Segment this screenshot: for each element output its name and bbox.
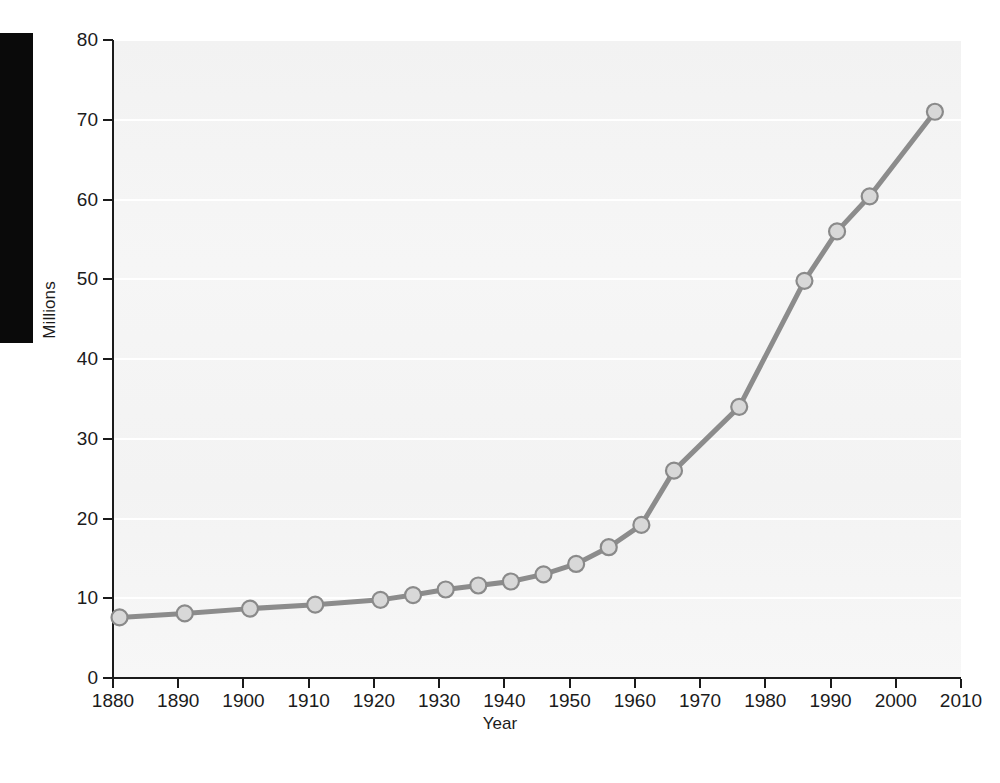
data-point-marker xyxy=(405,587,421,603)
data-point-marker xyxy=(177,605,193,621)
data-point-marker xyxy=(307,597,323,613)
data-point-marker xyxy=(536,566,552,582)
data-point-marker xyxy=(862,188,878,204)
data-point-marker xyxy=(927,104,943,120)
y-axis-label: Millions xyxy=(40,250,60,370)
data-point-marker xyxy=(372,592,388,608)
data-point-marker xyxy=(503,574,519,590)
data-point-marker xyxy=(568,556,584,572)
data-point-marker xyxy=(438,581,454,597)
data-point-marker xyxy=(796,273,812,289)
data-point-marker xyxy=(601,539,617,555)
data-point-marker xyxy=(112,609,128,625)
line-chart: 01020304050607080 1880189019001910192019… xyxy=(0,0,1000,783)
x-axis-label: Year xyxy=(0,714,1000,734)
data-point-marker xyxy=(731,399,747,415)
page-canvas: 01020304050607080 1880189019001910192019… xyxy=(0,0,1000,783)
data-point-marker xyxy=(470,577,486,593)
data-point-marker xyxy=(633,517,649,533)
data-point-marker xyxy=(666,463,682,479)
data-point-marker xyxy=(829,223,845,239)
series-line-and-markers xyxy=(0,0,1000,783)
data-point-marker xyxy=(242,601,258,617)
